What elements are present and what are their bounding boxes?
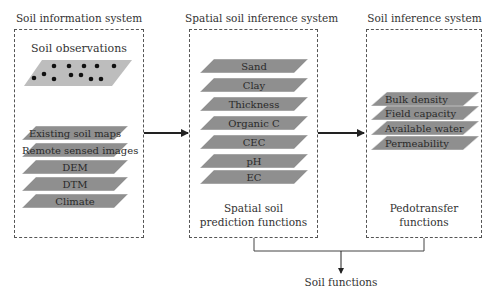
soil-functions-label: Soil functions	[295, 276, 387, 288]
connector-lines	[0, 0, 490, 299]
merge-line	[254, 238, 424, 251]
